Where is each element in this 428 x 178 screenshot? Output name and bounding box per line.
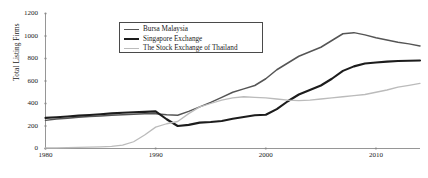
- legend: Bursa MalaysiaSingapore ExchangeThe Stoc…: [119, 22, 263, 53]
- y-axis-tick: [44, 80, 46, 82]
- y-axis-tick: [44, 12, 46, 14]
- legend-item: Singapore Exchange: [124, 35, 262, 45]
- y-axis-tick: [44, 35, 46, 37]
- x-axis-tick: [375, 147, 377, 149]
- legend-line-swatch: [124, 38, 139, 40]
- legend-item: Bursa Malaysia: [124, 25, 262, 35]
- x-axis-tick: [265, 147, 267, 149]
- legend-item-label: The Stock Exchange of Thailand: [143, 44, 237, 54]
- x-axis-tick: [155, 147, 157, 149]
- legend-line-swatch: [124, 29, 139, 30]
- y-axis-tick: [44, 57, 46, 59]
- legend-item-label: Singapore Exchange: [143, 35, 202, 45]
- legend-line-swatch: [124, 48, 139, 49]
- legend-item: The Stock Exchange of Thailand: [124, 44, 262, 54]
- y-axis-tick: [44, 102, 46, 104]
- y-axis-tick: [44, 125, 46, 127]
- legend-item-label: Bursa Malaysia: [143, 25, 188, 35]
- line-chart: Total Listing Firms 02004006008001000120…: [0, 0, 428, 178]
